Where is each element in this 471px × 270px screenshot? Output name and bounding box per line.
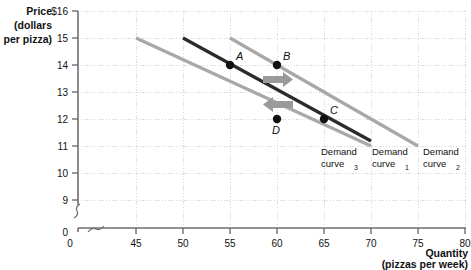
x-axis-title: Quantity (pizzas per week) <box>382 247 469 270</box>
ytick-label-16: $16 <box>51 6 68 17</box>
ytick-label-13: 13 <box>57 87 69 98</box>
ytick-label-12: 12 <box>57 114 69 125</box>
curve-label-1-subscript: 1 <box>405 164 409 171</box>
curve-label-3: Demand curve 3 <box>321 146 358 171</box>
y-axis-break-icon <box>74 204 80 218</box>
xtick-label-45: 45 <box>130 238 142 249</box>
y-tick-marks <box>72 11 78 200</box>
data-point-A <box>226 61 234 69</box>
curve-label-2-line2: curve <box>423 158 446 169</box>
curve-label-1-line2: curve <box>372 158 395 169</box>
xtick-label-50: 50 <box>177 238 189 249</box>
curve-labels: Demand curve 3 Demand curve 1 Demand cur… <box>321 146 460 171</box>
data-point-label-A: A <box>235 50 243 62</box>
data-point-C <box>320 115 328 123</box>
y-axis-title-line2: (dollars <box>14 19 52 31</box>
ytick-label-14: 14 <box>57 60 69 71</box>
curve-label-3-line2: curve <box>321 158 344 169</box>
grid-lines <box>78 11 466 228</box>
xtick-label-60: 60 <box>271 238 283 249</box>
ytick-label-11: 11 <box>58 141 69 152</box>
data-point-D <box>273 115 281 123</box>
curve-label-2-subscript: 2 <box>456 164 460 171</box>
y-axis-title-line3: per pizza) <box>4 33 52 45</box>
xtick-label-65: 65 <box>318 238 330 249</box>
curve-label-1: Demand curve 1 <box>372 146 409 171</box>
curve-label-2-line1: Demand <box>423 146 459 157</box>
curve-label-2: Demand curve 2 <box>423 146 460 171</box>
ytick-label-9: 9 <box>62 195 68 206</box>
curve-label-3-line1: Demand <box>321 146 357 157</box>
chart-svg: $16 15 14 13 12 11 10 9 0 0 45 50 55 <box>0 0 471 270</box>
xtick-label-55: 55 <box>224 238 236 249</box>
x-tick-labels: 0 45 50 55 60 65 70 75 80 <box>67 238 471 249</box>
ytick-label-0: 0 <box>62 227 68 238</box>
y-axis-title: Price (dollars per pizza) <box>4 5 53 45</box>
data-point-B <box>273 61 281 69</box>
data-point-label-D: D <box>272 124 280 136</box>
x-axis-break-icon <box>88 226 104 232</box>
demand-curve-chart: $16 15 14 13 12 11 10 9 0 0 45 50 55 <box>0 0 471 270</box>
xtick-label-0: 0 <box>67 238 73 249</box>
data-point-label-C: C <box>330 104 338 116</box>
x-axis-title-line2: (pizzas per week) <box>382 258 468 270</box>
xtick-label-70: 70 <box>365 238 377 249</box>
xtick-label-75: 75 <box>412 238 424 249</box>
curve-label-1-line1: Demand <box>372 146 408 157</box>
x-tick-marks <box>136 228 465 234</box>
y-axis-title-line1: Price <box>26 5 52 17</box>
ytick-label-10: 10 <box>57 168 69 179</box>
data-point-label-B: B <box>283 50 290 62</box>
y-tick-labels: $16 15 14 13 12 11 10 9 0 <box>51 6 68 238</box>
ytick-label-15: 15 <box>57 33 69 44</box>
curve-label-3-subscript: 3 <box>354 164 358 171</box>
